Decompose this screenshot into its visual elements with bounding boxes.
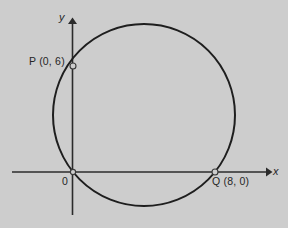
point-marker-origin bbox=[70, 169, 75, 174]
x-axis-arrow-icon bbox=[266, 168, 273, 177]
label-origin: 0 bbox=[62, 176, 68, 187]
label-x-axis: x bbox=[273, 166, 279, 177]
diagram-canvas bbox=[0, 0, 288, 228]
coordinate-diagram: P (0, 6) Q (8, 0) 0 x y bbox=[0, 0, 288, 228]
label-y-axis: y bbox=[59, 12, 65, 23]
point-marker-p bbox=[70, 63, 76, 69]
circle-curve bbox=[53, 24, 235, 206]
label-point-q: Q (8, 0) bbox=[212, 176, 249, 187]
label-point-p: P (0, 6) bbox=[29, 56, 65, 67]
y-axis-arrow-icon bbox=[68, 18, 77, 25]
